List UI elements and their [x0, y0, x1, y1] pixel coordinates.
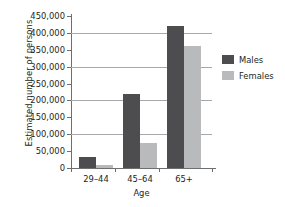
y-axis-tick-mark: [67, 151, 71, 152]
x-axis-tick-mark: [115, 168, 116, 172]
y-axis-tick-mark: [67, 100, 71, 101]
plot-area: 050,000100,000150,000200,000250,000300,0…: [71, 16, 212, 168]
y-axis-tick-mark: [67, 84, 71, 85]
legend-item-males[interactable]: Males: [222, 53, 274, 66]
bar-group: [167, 16, 201, 168]
bar-chart: Estimated number of persons 050,000100,0…: [0, 0, 285, 207]
x-axis-tick-mark: [159, 168, 160, 172]
bar-group: [79, 16, 113, 168]
legend-label-males: Males: [239, 55, 263, 65]
y-axis-tick-mark: [67, 134, 71, 135]
bar-females-0: [96, 165, 113, 168]
x-axis-tick-mark: [71, 168, 72, 172]
x-axis-line: [69, 168, 216, 169]
y-axis-tick-mark: [67, 117, 71, 118]
x-axis-label-2: 65+: [154, 174, 214, 184]
legend-swatch-females: [222, 71, 234, 80]
bar-females-1: [140, 143, 157, 168]
y-axis-tick-label: 450,000: [30, 11, 65, 21]
legend-swatch-males: [222, 55, 234, 64]
y-axis-tick-label: 400,000: [30, 28, 65, 38]
bar-males-1: [123, 94, 140, 168]
y-axis-tick-mark: [67, 67, 71, 68]
bar-females-2: [184, 46, 201, 168]
y-axis-tick-mark: [67, 33, 71, 34]
bar-males-2: [167, 26, 184, 168]
y-axis-tick-label: 100,000: [30, 129, 65, 139]
bar-group: [123, 16, 157, 168]
legend: MalesFemales: [222, 53, 274, 85]
y-axis-tick-label: 200,000: [30, 95, 65, 105]
bar-males-0: [79, 157, 96, 168]
y-axis-tick-label: 350,000: [30, 45, 65, 55]
y-axis-tick-label: 150,000: [30, 112, 65, 122]
x-axis-title: Age: [71, 188, 212, 198]
y-axis-tick-mark: [67, 16, 71, 17]
y-axis-tick-label: 300,000: [30, 62, 65, 72]
y-axis-tick-label: 50,000: [36, 146, 65, 156]
y-axis-tick-label: 0: [60, 163, 65, 173]
y-axis-tick-mark: [67, 50, 71, 51]
y-axis-tick-label: 250,000: [30, 79, 65, 89]
legend-item-females[interactable]: Females: [222, 69, 274, 82]
legend-label-females: Females: [239, 71, 274, 81]
x-axis-tick-mark: [212, 168, 213, 172]
